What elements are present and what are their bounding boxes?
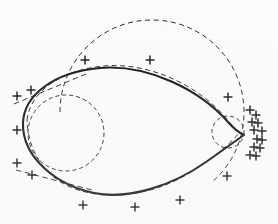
plus-marker — [256, 144, 265, 153]
plus-marker — [224, 93, 233, 102]
plus-marker — [252, 152, 261, 161]
upper-left-tangent-line — [14, 74, 86, 104]
plus-marker — [79, 201, 88, 210]
plus-marker — [258, 136, 267, 145]
plus-marker — [253, 135, 262, 144]
plus-marker — [13, 126, 22, 135]
plus-marker — [13, 159, 22, 168]
plus-marker — [250, 143, 259, 152]
figure-root — [0, 0, 278, 224]
plus-marker — [254, 119, 263, 128]
plus-marker — [81, 56, 90, 65]
plus-marker — [223, 172, 232, 181]
plus-marker — [28, 171, 37, 180]
plus-marker — [252, 111, 261, 120]
large-dashed-circle — [60, 20, 244, 182]
plus-marker — [258, 127, 267, 136]
plus-marker — [131, 203, 140, 212]
figure-canvas — [0, 0, 278, 224]
plus-marker — [250, 126, 259, 135]
inner-dashed-circle — [28, 95, 104, 171]
plus-marker — [246, 106, 255, 115]
plus-marker — [13, 92, 22, 101]
plus-marker — [246, 151, 255, 160]
plus-marker — [248, 118, 257, 127]
plus-marker — [27, 86, 36, 95]
plus-marker — [176, 196, 185, 205]
lower-left-tangent-line — [16, 170, 92, 190]
plus-marker-group — [13, 56, 267, 212]
plus-marker — [146, 56, 155, 65]
